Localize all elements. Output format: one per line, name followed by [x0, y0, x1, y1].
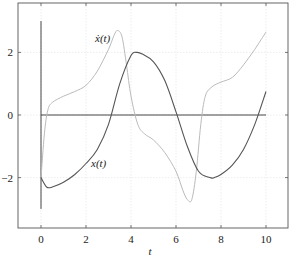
series-label-x: x(t): [90, 157, 107, 170]
series-label-xdot: ẋ(t): [94, 32, 111, 45]
line-chart: ẋ(t) x(t) 0246810 −202 t: [0, 0, 290, 259]
tick-marks: [18, 3, 288, 228]
series-xdot-line: [41, 30, 266, 202]
x-tick-label: 2: [83, 233, 89, 245]
x-tick-labels: 0246810: [38, 233, 272, 245]
x-axis-label: t: [148, 245, 152, 257]
y-tick-label: −2: [1, 172, 13, 184]
x-tick-label: 4: [128, 233, 134, 245]
grid: [18, 3, 288, 228]
x-tick-label: 6: [173, 233, 179, 245]
x-tick-label: 10: [261, 233, 273, 245]
y-tick-label: 2: [8, 46, 14, 58]
y-tick-labels: −202: [1, 46, 13, 183]
y-tick-label: 0: [8, 109, 14, 121]
reference-lines: [41, 21, 266, 209]
series-x-line: [41, 52, 266, 188]
x-tick-label: 0: [38, 233, 44, 245]
plot-frame: [18, 3, 288, 228]
x-tick-label: 8: [218, 233, 224, 245]
